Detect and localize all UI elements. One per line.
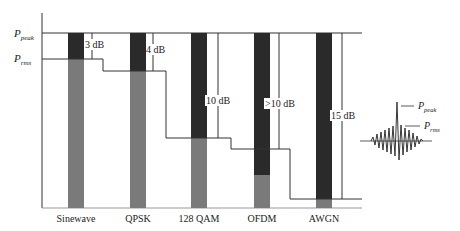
bar-awgn [316,33,332,208]
category-label-ofdm: OFDM [248,213,277,224]
papr-label-sinewave: 3 dB [85,39,105,50]
inset-label-peak: Ppeak [417,100,436,113]
category-label-awgn: AWGN [309,213,339,224]
waveform-icon [371,102,423,160]
bar-ofdm [254,33,270,208]
papr-label-awgn: 15 dB [331,110,356,121]
papr-label-qpsk: 4 dB [146,44,166,55]
bar-128qam [191,33,207,208]
category-label-sinewave: Sinewave [57,213,96,224]
papr-label-ofdm: >10 dB [265,98,295,109]
y-label-peak: Ppeak [13,27,35,42]
y-label-rms: Prms [13,52,32,67]
papr-diagram: 3 dB 4 dB 10 dB >10 dB 15 dB Ppeak Prms … [0,0,460,231]
bar-qpsk [130,33,146,208]
category-label-qpsk: QPSK [125,213,151,224]
category-label-128qam: 128 QAM [179,213,220,224]
papr-label-128qam: 10 dB [206,95,231,106]
inset-label-rms: Prms [423,120,440,133]
